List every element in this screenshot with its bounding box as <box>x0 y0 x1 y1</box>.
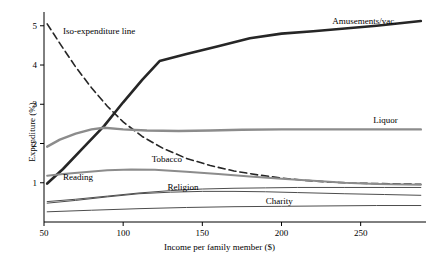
y-tick-label: 3 <box>33 99 38 109</box>
y-tick-label: 1 <box>33 178 38 188</box>
annotation-charity: Charity <box>266 196 293 206</box>
x-tick-label: 250 <box>354 228 368 238</box>
annotation-iso-expenditure-line: Iso-expenditure line <box>63 26 135 36</box>
series-liquor <box>47 128 421 147</box>
x-tick-label: 150 <box>196 228 210 238</box>
series-religion <box>47 191 421 203</box>
x-tick-label: 200 <box>275 228 289 238</box>
y-tick-label: 4 <box>33 60 38 70</box>
annotation-liquor: Liquor <box>373 115 398 125</box>
annotation-amusements-vac: Amusements/vac. <box>332 16 396 26</box>
chart-container: Expenditure (%) Income per family member… <box>0 0 438 264</box>
annotation-religion: Religion <box>168 182 199 192</box>
x-tick-label: 100 <box>116 228 130 238</box>
series-iso-expenditure-line <box>47 24 421 185</box>
y-tick-label: 5 <box>33 21 38 31</box>
x-tick-label: 50 <box>40 228 50 238</box>
series-amusements-vac <box>47 21 421 183</box>
axes <box>44 12 426 222</box>
annotation-reading: Reading <box>63 172 93 182</box>
series-charity <box>47 206 421 212</box>
y-tick-label: 2 <box>33 139 38 149</box>
series-lines <box>47 21 421 212</box>
annotation-tobacco: Tobacco <box>152 154 183 164</box>
plot-area: 1234550100150200250 Iso-expenditure line… <box>0 0 438 264</box>
